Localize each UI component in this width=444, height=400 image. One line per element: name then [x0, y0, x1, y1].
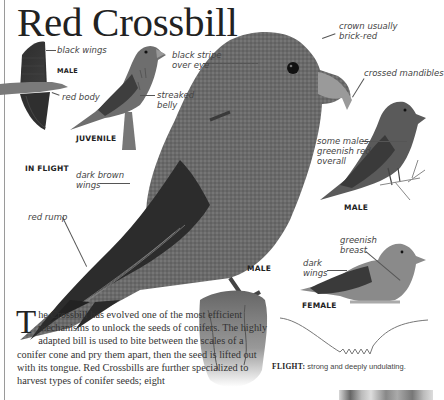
caption-female: FEMALE	[302, 301, 337, 310]
leader-streaked-belly	[140, 95, 155, 96]
label-red-rump: red rump	[28, 212, 67, 222]
caption-greenish-male: MALE	[344, 203, 368, 212]
label-dark-brown-wings: dark brown wings	[76, 170, 124, 190]
caption-in-flight: IN FLIGHT	[25, 164, 69, 173]
label-crossed-mandibles: crossed mandibles	[364, 68, 444, 78]
drop-cap: T	[16, 309, 36, 335]
label-red-body: red body	[62, 92, 100, 102]
label-greenish-breast: greenish breast	[340, 235, 377, 255]
leader-dark-wings	[327, 270, 347, 271]
habitat-photo	[339, 390, 433, 400]
caption-main-male: MALE	[247, 264, 271, 273]
flight-caption: FLIGHT: strong and deeply undulating.	[272, 362, 406, 371]
flight-pattern-diagram	[280, 318, 428, 354]
caption-in-flight-male: MALE	[57, 67, 78, 75]
label-crown-brick-red: crown usually brick-red	[339, 21, 398, 41]
label-greenish-male: some males greenish red overall	[317, 136, 371, 166]
label-black-stripe: black stripe over eye	[172, 50, 222, 70]
body-paragraph: The Crossbill has evolved one of the mos…	[17, 308, 272, 387]
label-black-wings: black wings	[57, 45, 107, 55]
label-streaked-belly: streaked belly	[157, 90, 194, 110]
label-dark-wings: dark wings	[303, 258, 328, 278]
caption-juvenile: JUVENILE	[76, 134, 116, 143]
body-text: he Crossbill has evolved one of the most…	[17, 309, 267, 386]
leader-black-wings	[46, 50, 56, 51]
flight-description: strong and deeply undulating.	[307, 362, 405, 371]
flight-label: FLIGHT:	[272, 362, 305, 371]
